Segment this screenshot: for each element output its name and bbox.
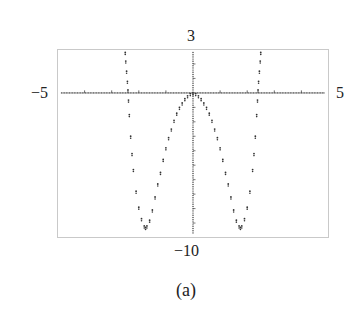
x-max-label: 5 (336, 85, 344, 101)
axes (61, 52, 325, 234)
x-min-label: −5 (31, 85, 48, 101)
graph-plot (0, 0, 358, 313)
y-min-label: −10 (174, 243, 199, 259)
y-max-label: 3 (187, 28, 195, 44)
figure-caption: (a) (176, 280, 196, 301)
